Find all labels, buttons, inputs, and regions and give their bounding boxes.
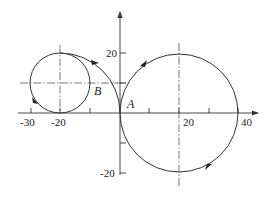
x-label-20: 20 (183, 116, 195, 128)
y-label-neg20: -20 (100, 167, 115, 179)
y-label-20: 20 (106, 47, 118, 59)
x-label-neg30: -30 (20, 116, 35, 128)
centerlines (20, 43, 179, 186)
x-label-neg20: -20 (51, 116, 66, 128)
axes (18, 12, 258, 175)
arrow-icon (140, 60, 147, 67)
trajectory (30, 53, 238, 172)
trajectory-diagram: -30 -20 20 40 20 -20 A B (0, 0, 273, 198)
point-a-label: A (126, 97, 135, 111)
point-b-label: B (94, 84, 102, 98)
direction-arrows (32, 60, 212, 170)
x-label-40: 40 (241, 116, 253, 128)
